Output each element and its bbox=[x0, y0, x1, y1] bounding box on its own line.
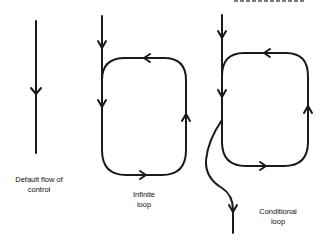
label-line: loop bbox=[252, 217, 304, 227]
label-line: loop bbox=[124, 200, 164, 210]
infinite-loop-shape bbox=[98, 16, 190, 179]
label-line: control bbox=[8, 185, 70, 195]
label-line: Infinite bbox=[124, 190, 164, 200]
exit-path bbox=[206, 120, 233, 233]
conditional-loop-label: Conditional loop bbox=[252, 207, 304, 227]
conditional-loop-shape bbox=[206, 15, 312, 233]
label-line: Conditional bbox=[252, 207, 304, 217]
infinite-loop-label: Infinite loop bbox=[124, 190, 164, 210]
default-flow-label: Default flow of control bbox=[8, 175, 70, 195]
label-line: Default flow of bbox=[8, 175, 70, 185]
default-flow-line bbox=[31, 21, 41, 153]
